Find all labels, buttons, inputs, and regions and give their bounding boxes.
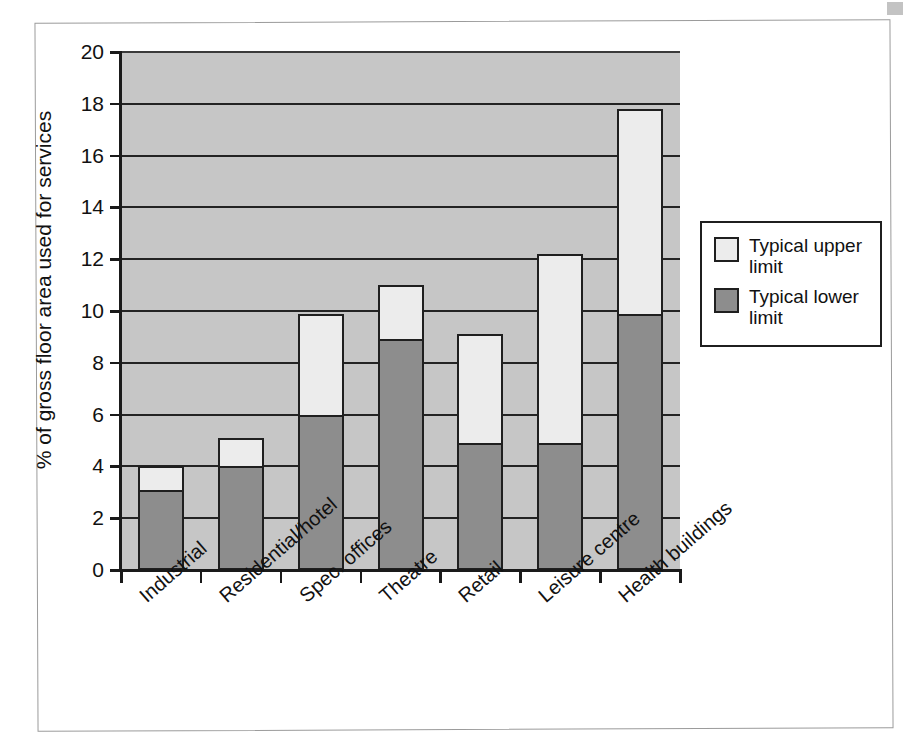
y-tick-6 bbox=[110, 414, 120, 417]
y-tick-label-16: 16 bbox=[52, 145, 104, 166]
x-tick-0 bbox=[120, 570, 123, 583]
y-tick-label-4: 4 bbox=[52, 455, 104, 476]
legend-swatch-lower-icon bbox=[714, 288, 739, 313]
y-tick-14 bbox=[110, 206, 120, 209]
bar-segment-upper bbox=[457, 334, 503, 445]
x-tick-3 bbox=[360, 570, 363, 583]
bars-layer bbox=[121, 52, 680, 570]
chart-legend: Typical upperlimit Typical lowerlimit bbox=[700, 221, 882, 347]
x-tick-6 bbox=[599, 570, 602, 583]
legend-label-lower: Typical lowerlimit bbox=[749, 286, 859, 328]
bar-chart: 02468101214161820 IndustrialResidential/… bbox=[0, 0, 921, 754]
x-tick-4 bbox=[439, 570, 442, 583]
x-tick-7 bbox=[679, 570, 682, 583]
y-tick-label-2: 2 bbox=[52, 507, 104, 528]
bar-segment-lower bbox=[537, 443, 583, 570]
y-tick-2 bbox=[110, 517, 120, 520]
figure-page: 02468101214161820 IndustrialResidential/… bbox=[0, 0, 921, 754]
x-tick-1 bbox=[200, 570, 203, 583]
legend-item-lower: Typical lowerlimit bbox=[714, 286, 870, 328]
y-tick-20 bbox=[110, 51, 120, 54]
y-tick-16 bbox=[110, 155, 120, 158]
y-tick-label-12: 12 bbox=[52, 248, 104, 269]
bar-segment-upper bbox=[138, 466, 184, 491]
y-tick-4 bbox=[110, 465, 120, 468]
y-tick-0 bbox=[110, 569, 120, 572]
legend-label-upper: Typical upperlimit bbox=[749, 235, 862, 277]
bar-segment-upper bbox=[378, 285, 424, 341]
y-tick-18 bbox=[110, 103, 120, 106]
y-tick-12 bbox=[110, 258, 120, 261]
bar-segment-upper bbox=[617, 109, 663, 316]
bar-segment-lower bbox=[298, 415, 344, 570]
bar-segment-upper bbox=[218, 438, 264, 468]
y-tick-8 bbox=[110, 362, 120, 365]
legend-item-upper: Typical upperlimit bbox=[714, 235, 870, 277]
bar-group bbox=[298, 52, 344, 570]
bar-group bbox=[457, 52, 503, 570]
bar-segment-lower bbox=[457, 443, 503, 570]
bar-segment-upper bbox=[298, 314, 344, 417]
y-tick-label-10: 10 bbox=[52, 300, 104, 321]
y-tick-label-20: 20 bbox=[52, 41, 104, 62]
bar-group bbox=[138, 52, 184, 570]
x-tick-5 bbox=[519, 570, 522, 583]
y-axis-title: % of gross floor area used for services bbox=[32, 100, 56, 480]
y-tick-label-14: 14 bbox=[52, 196, 104, 217]
x-tick-2 bbox=[280, 570, 283, 583]
bar-group bbox=[218, 52, 264, 570]
bar-group bbox=[378, 52, 424, 570]
bar-segment-upper bbox=[537, 254, 583, 445]
bar-group bbox=[617, 52, 663, 570]
y-tick-10 bbox=[110, 310, 120, 313]
y-tick-label-8: 8 bbox=[52, 352, 104, 373]
y-tick-label-6: 6 bbox=[52, 404, 104, 425]
bar-group bbox=[537, 52, 583, 570]
y-tick-label-0: 0 bbox=[52, 559, 104, 580]
y-tick-label-18: 18 bbox=[52, 93, 104, 114]
legend-swatch-upper-icon bbox=[714, 237, 739, 262]
